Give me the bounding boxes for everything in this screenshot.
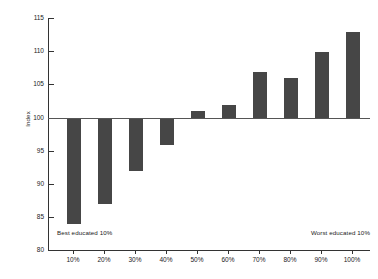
- y-tick-90: [49, 184, 54, 185]
- y-tick-110: [49, 51, 54, 52]
- baseline-100: [48, 118, 370, 119]
- annotation-worst-educated: Worst educated 10%: [311, 229, 370, 236]
- y-tick-label-95: 95: [22, 147, 44, 154]
- bar-20: [98, 118, 112, 204]
- bar-70: [253, 72, 267, 118]
- y-tick-label-115: 115: [22, 14, 44, 21]
- plot-area: [48, 18, 370, 250]
- x-tick-20: [104, 250, 105, 254]
- x-tick-30: [135, 250, 136, 254]
- x-tick-100: [352, 250, 353, 254]
- y-tick-label-100: 100: [22, 114, 44, 121]
- bar-80: [284, 78, 298, 118]
- y-tick-95: [49, 151, 54, 152]
- y-tick-label-85: 85: [22, 213, 44, 220]
- bar-30: [129, 118, 143, 171]
- x-tick-50: [197, 250, 198, 254]
- bar-10: [67, 118, 81, 224]
- y-tick-label-110: 110: [22, 47, 44, 54]
- y-tick-label-90: 90: [22, 180, 44, 187]
- bar-chart: Index 115 110 105 100 95 90 85 80: [0, 0, 378, 279]
- x-tick-60: [228, 250, 229, 254]
- bar-40: [160, 118, 174, 145]
- y-tick-85: [49, 217, 54, 218]
- bar-90: [315, 52, 329, 118]
- x-tick-90: [321, 250, 322, 254]
- x-tick-40: [166, 250, 167, 254]
- y-tick-115: [49, 18, 54, 19]
- x-tick-label-100: 100%: [332, 256, 372, 264]
- y-tick-label-105: 105: [22, 80, 44, 87]
- y-tick-105: [49, 84, 54, 85]
- bar-50: [191, 111, 205, 118]
- y-tick-label-80: 80: [22, 246, 44, 253]
- bar-60: [222, 105, 236, 118]
- annotation-best-educated: Best educated 10%: [57, 229, 112, 236]
- x-tick-80: [290, 250, 291, 254]
- x-tick-70: [259, 250, 260, 254]
- x-tick-10: [73, 250, 74, 254]
- bar-100: [346, 32, 360, 118]
